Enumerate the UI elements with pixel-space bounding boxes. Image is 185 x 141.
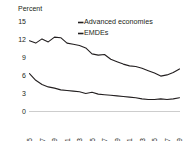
x-axis-tick-labels: 1995199719992001200320052007200920112013…	[26, 138, 183, 141]
data-series-group	[30, 37, 180, 99]
x-tick-label: 1999	[51, 138, 58, 141]
x-tick-label: 1997	[39, 138, 46, 141]
y-axis-tick-labels: 03691215	[18, 18, 26, 115]
x-tick-label: 2005	[89, 138, 96, 141]
legend-label: Advanced economies	[84, 17, 153, 26]
y-tick-label: 15	[18, 18, 26, 25]
x-tick-label: 2003	[76, 138, 83, 141]
x-tick-label: 2009	[114, 138, 121, 141]
chart-legend: Advanced economiesEMDEs	[78, 17, 153, 37]
series-line-advanced-economies	[30, 74, 180, 100]
x-tick-label: 1995	[26, 138, 33, 141]
x-tick-label: 2015	[151, 138, 158, 141]
x-tick-label: 2011	[126, 138, 133, 141]
x-tick-label: 2007	[101, 138, 108, 141]
legend-label: EMDEs	[84, 28, 109, 37]
x-tick-label: 2019	[176, 138, 183, 141]
series-line-emdes	[30, 37, 180, 76]
y-tick-label: 6	[22, 72, 26, 79]
x-tick-label: 2017	[164, 138, 171, 141]
chart-container: Percent 03691215 19951997199920012003200…	[0, 0, 185, 141]
y-tick-label: 0	[22, 108, 26, 115]
y-tick-label: 3	[22, 90, 26, 97]
x-tick-label: 2013	[139, 138, 146, 141]
y-tick-label: 9	[22, 54, 26, 61]
chart-plot-area: 03691215 1995199719992001200320052007200…	[0, 0, 185, 141]
x-tick-label: 2001	[64, 138, 71, 141]
y-tick-label: 12	[18, 36, 26, 43]
